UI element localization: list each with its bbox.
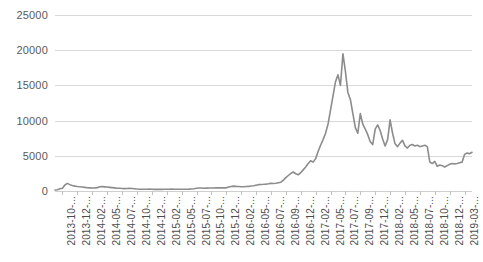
x-axis-tick-label: 2015-02-...: [171, 196, 182, 245]
x-axis-tick: [211, 191, 212, 195]
x-axis-tick-label: 2014-10-...: [141, 196, 152, 245]
price-line-series: [55, 15, 472, 191]
x-axis-tick: [182, 191, 183, 195]
x-axis-tick: [77, 191, 78, 195]
x-axis-tick: [450, 191, 451, 195]
plot-area: [55, 15, 472, 191]
x-axis-labels: 2013-10-...2013-12-...2014-02-...2014-05…: [55, 196, 472, 262]
x-axis-tick-label: 2017-09-...: [364, 196, 375, 245]
x-axis-tick: [92, 191, 93, 195]
x-axis-tick: [226, 191, 227, 195]
y-axis-tick-label: 0: [42, 185, 48, 197]
x-axis-tick: [107, 191, 108, 195]
x-axis-tick-label: 2016-09-...: [290, 196, 301, 245]
x-axis-tick: [271, 191, 272, 195]
x-axis-tick-label: 2013-10-...: [66, 196, 77, 245]
x-axis-tick: [360, 191, 361, 195]
y-axis-tick-label: 5000: [23, 150, 48, 162]
x-axis-tick: [301, 191, 302, 195]
x-axis-tick: [405, 191, 406, 195]
x-axis-tick: [331, 191, 332, 195]
x-axis-tick: [375, 191, 376, 195]
x-axis-tick-label: 2018-05-...: [409, 196, 420, 245]
x-axis-tick-label: 2019-03-...: [469, 196, 480, 245]
x-axis-tick-label: 2016-12-...: [305, 196, 316, 245]
x-axis-tick: [286, 191, 287, 195]
x-axis-tick: [137, 191, 138, 195]
x-axis-tick-label: 2017-12-...: [379, 196, 390, 245]
price-polyline: [55, 54, 472, 190]
y-axis-tick-label: 20000: [16, 44, 48, 56]
x-axis-tick: [241, 191, 242, 195]
x-axis-tick-label: 2015-12-...: [230, 196, 241, 245]
x-axis-tick-label: 2017-02-...: [320, 196, 331, 245]
x-axis-tick: [316, 191, 317, 195]
x-axis-tick-label: 2015-05-...: [186, 196, 197, 245]
x-axis-tick: [122, 191, 123, 195]
x-axis-tick-label: 2018-10-...: [439, 196, 450, 245]
x-axis-tick-label: 2014-02-...: [96, 196, 107, 245]
bitcoin-price-chart: 0500010000150002000025000 2013-10-...201…: [0, 0, 483, 262]
y-axis-tick-label: 10000: [16, 115, 48, 127]
x-axis-tick: [465, 191, 466, 195]
x-axis-tick-label: 2016-07-...: [275, 196, 286, 245]
x-axis-tick: [62, 191, 63, 195]
x-axis-tick-label: 2017-05-...: [335, 196, 346, 245]
x-axis-tick-label: 2015-07-...: [201, 196, 212, 245]
x-axis-tick-label: 2014-07-...: [126, 196, 137, 245]
x-axis-tick-label: 2015-10-...: [215, 196, 226, 245]
y-axis-labels: 0500010000150002000025000: [0, 0, 52, 200]
x-axis-tick-label: 2014-12-...: [156, 196, 167, 245]
x-axis-tick: [345, 191, 346, 195]
x-axis-tick-label: 2018-07-...: [424, 196, 435, 245]
x-axis-tick: [167, 191, 168, 195]
x-axis-tick: [435, 191, 436, 195]
x-axis-tick-label: 2018-02-...: [394, 196, 405, 245]
x-axis-tick: [390, 191, 391, 195]
y-axis-tick-label: 25000: [16, 9, 48, 21]
y-axis-tick-label: 15000: [16, 79, 48, 91]
x-axis-tick-label: 2016-02-...: [245, 196, 256, 245]
x-axis-tick: [420, 191, 421, 195]
x-axis-tick-label: 2013-12-...: [81, 196, 92, 245]
x-axis-tick-label: 2014-05-...: [111, 196, 122, 245]
x-axis-tick-label: 2018-12-...: [454, 196, 465, 245]
x-axis-tick-label: 2016-05-...: [260, 196, 271, 245]
x-axis-tick: [256, 191, 257, 195]
x-axis-tick-label: 2017-07-...: [349, 196, 360, 245]
x-axis-tick: [197, 191, 198, 195]
x-axis-tick: [152, 191, 153, 195]
